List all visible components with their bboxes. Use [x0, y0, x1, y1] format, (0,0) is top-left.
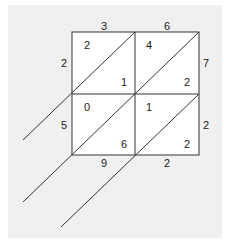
- right-digit-1: 7: [203, 58, 209, 69]
- left-digit-1: 2: [61, 58, 67, 69]
- cell-r1c2-upper: 4: [146, 40, 152, 51]
- bottom-digit-1: 9: [101, 158, 107, 169]
- left-digit-2: 5: [61, 120, 67, 131]
- cell-r2c2-upper: 1: [146, 102, 152, 113]
- cell-r2c2-lower: 2: [184, 139, 190, 150]
- cell-r1c2-lower: 2: [184, 77, 190, 88]
- cell-r2c1-upper: 0: [84, 102, 90, 113]
- bottom-digit-2: 2: [164, 158, 170, 169]
- right-digit-2: 2: [203, 120, 209, 131]
- top-digit-1: 3: [101, 21, 107, 32]
- lattice-grid: [0, 0, 228, 247]
- cell-r1c1-upper: 2: [84, 40, 90, 51]
- top-digit-2: 6: [164, 21, 170, 32]
- cell-r2c1-lower: 6: [121, 139, 127, 150]
- cell-r1c1-lower: 1: [121, 77, 127, 88]
